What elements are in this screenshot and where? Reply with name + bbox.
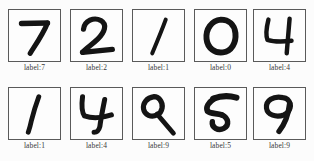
- digit-label: label:4: [253, 62, 306, 73]
- digit-image-0: [194, 9, 247, 62]
- digit-label: label:9: [132, 140, 185, 151]
- digit-label: label:5: [194, 140, 247, 151]
- digit-cell: label:9: [253, 87, 308, 161]
- handwritten-digit-glyph: [133, 88, 184, 139]
- digit-cell: label:4: [253, 9, 308, 87]
- handwritten-digit-glyph: [133, 10, 184, 61]
- handwritten-digit-glyph: [254, 88, 305, 139]
- handwritten-digit-glyph: [195, 10, 246, 61]
- digit-sample-grid: label:7 label:2 label:1: [0, 0, 314, 161]
- digit-image-9: [253, 87, 306, 140]
- digit-image-1: [132, 9, 185, 62]
- handwritten-digit-glyph: [9, 10, 60, 61]
- handwritten-digit-glyph: [71, 10, 122, 61]
- handwritten-digit-glyph: [195, 88, 246, 139]
- digit-label: label:2: [70, 62, 123, 73]
- digit-label: label:0: [194, 62, 247, 73]
- digit-image-7: [8, 9, 61, 62]
- digit-label: label:7: [8, 62, 61, 73]
- digit-image-4: [70, 87, 123, 140]
- handwritten-digit-glyph: [9, 88, 60, 139]
- digit-image-2: [70, 9, 123, 62]
- digit-cell: label:7: [8, 9, 63, 87]
- digit-cell: label:0: [194, 9, 249, 87]
- digit-cell: label:1: [8, 87, 63, 161]
- digit-image-5: [194, 87, 247, 140]
- digit-label: label:9: [253, 140, 306, 151]
- digit-cell: label:5: [194, 87, 249, 161]
- digit-cell: label:9: [132, 87, 187, 161]
- handwritten-digit-glyph: [71, 88, 122, 139]
- digit-label: label:1: [132, 62, 185, 73]
- digit-cell: label:1: [132, 9, 187, 87]
- digit-cell: label:2: [70, 9, 125, 87]
- handwritten-digit-glyph: [254, 10, 305, 61]
- digit-label: label:4: [70, 140, 123, 151]
- digit-image-1: [8, 87, 61, 140]
- digit-image-4: [253, 9, 306, 62]
- digit-image-9: [132, 87, 185, 140]
- digit-label: label:1: [8, 140, 61, 151]
- digit-cell: label:4: [70, 87, 125, 161]
